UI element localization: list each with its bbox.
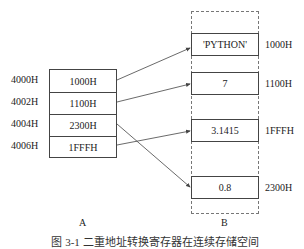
label-b: B — [221, 217, 228, 228]
label-a: A — [79, 217, 86, 228]
arrow-4002-to-1100 — [117, 84, 190, 102]
figure-caption: 图 3-1 二重地址转换寄存器在连续存储空间 — [40, 233, 270, 249]
arrow-4000-to-1000 — [117, 48, 190, 80]
